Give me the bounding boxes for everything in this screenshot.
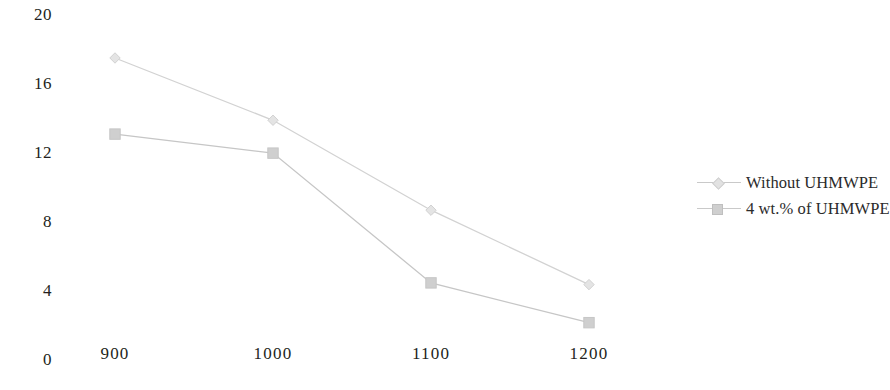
data-point [426,278,436,288]
series-2-markers [110,129,594,328]
legend-item-label: Without UHMWPE [741,173,878,193]
data-point [268,148,278,158]
series-1-line [115,58,589,285]
data-point [110,129,120,139]
data-point [426,205,436,215]
series-1-markers [110,53,594,290]
data-point [584,279,594,289]
data-point [584,317,594,327]
chart-legend: Without UHMWPE 4 wt.% of UHMWPE [697,170,880,222]
data-point [268,115,278,125]
legend-item-without-uhmwpe[interactable]: Without UHMWPE [697,170,880,196]
diamond-marker-icon [697,175,741,191]
legend-item-label: 4 wt.% of UHMWPE [741,199,890,219]
series-without-uhmwpe [110,53,594,290]
square-marker-icon [697,201,741,217]
series-4wt-uhmwpe [110,129,594,328]
data-point [110,53,120,63]
legend-item-4wt-uhmwpe[interactable]: 4 wt.% of UHMWPE [697,196,880,222]
series-2-line [115,134,589,323]
